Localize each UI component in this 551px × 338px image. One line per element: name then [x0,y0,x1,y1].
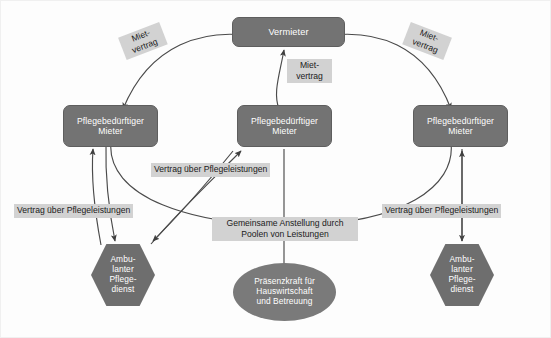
tenant-right-line2: Mieter [448,126,472,136]
care-right-line4: dienst [451,284,474,294]
care-contract-left-text: Vertrag über Pflegeleistungen [17,205,130,215]
edge-label-care-contract-middle: Vertrag über Pflegeleistungen [151,163,270,177]
node-tenant-center[interactable]: Pflegebedürftiger Mieter [237,105,332,147]
node-tenant-left[interactable]: Pflegebedürftiger Mieter [63,105,158,147]
presence-line1: Präsenzkraft für [254,276,315,286]
presence-line3: und Betreuung [256,296,312,306]
rent-center-line1: Miet- [300,60,319,70]
edge-label-care-contract-left: Vertrag über Pflegeleistungen [14,204,133,218]
edge-label-rent-right: Miet- vertrag [402,22,452,61]
node-tenant-left-label: Pflegebedürftiger Mieter [74,116,147,136]
edge-label-rent-left: Miet- vertrag [118,22,168,61]
tenant-center-line2: Mieter [272,126,296,136]
care-contract-right-text: Vertrag über Pflegeleistungen [385,205,498,215]
care-left-line2: lanter [112,264,134,274]
pooling-line1: Gemeinsame Anstellung durch [226,218,343,228]
rent-center-line2: vertrag [296,71,323,81]
node-care-service-left-label: Ambu- lanter Pflege- dienst [106,255,139,295]
node-care-service-right-label: Ambu- lanter Pflege- dienst [445,255,478,295]
pooling-line2: Poolen von Leistungen [241,229,328,239]
node-tenant-right-label: Pflegebedürftiger Mieter [424,116,497,136]
tenant-left-line1: Pflegebedürftiger [77,116,144,126]
care-left-line4: dienst [112,284,135,294]
node-tenant-right[interactable]: Pflegebedürftiger Mieter [413,105,508,147]
care-contract-middle-text: Vertrag über Pflegeleistungen [154,164,267,174]
edge-label-rent-center: Miet- vertrag [287,59,332,83]
node-tenant-center-label: Pflegebedürftiger Mieter [248,116,321,136]
tenant-center-line1: Pflegebedürftiger [251,116,318,126]
care-right-line1: Ambu- [449,254,474,264]
node-presence-worker[interactable]: Präsenzkraft für Hauswirtschaft und Betr… [233,263,336,321]
node-landlord[interactable]: Vermieter [232,17,345,47]
node-landlord-label: Vermieter [265,27,311,38]
edge-label-pooling: Gemeinsame Anstellung durch Poolen von L… [212,217,358,241]
tenant-right-line1: Pflegebedürftiger [427,116,494,126]
node-care-service-left[interactable]: Ambu- lanter Pflege- dienst [91,244,155,306]
care-left-line1: Ambu- [110,254,135,264]
node-presence-worker-label: Präsenzkraft für Hauswirtschaft und Betr… [251,277,318,307]
care-right-line3: Pflege- [448,274,475,284]
tenant-left-line2: Mieter [98,126,122,136]
presence-line2: Hauswirtschaft [256,286,312,296]
diagram-canvas: Vermieter Pflegebedürftiger Mieter Pfleg… [0,0,551,338]
edge-label-care-contract-right: Vertrag über Pflegeleistungen [382,204,501,218]
care-left-line3: Pflege- [109,274,136,284]
care-right-line2: lanter [451,264,473,274]
node-care-service-right[interactable]: Ambu- lanter Pflege- dienst [430,244,494,306]
